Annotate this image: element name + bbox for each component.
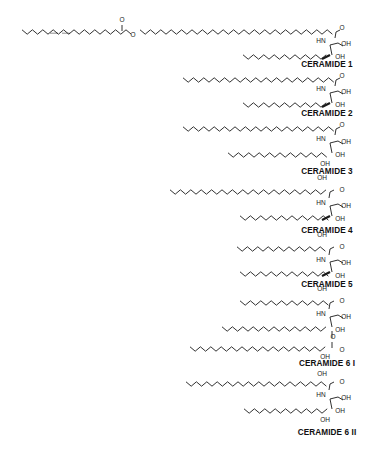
backbone-bond <box>330 206 332 216</box>
atom-label-oh: OH <box>320 416 330 423</box>
amide-bond <box>335 32 336 38</box>
ceramide-6-i-structure: OHOHNOHOHOOOH CERAMIDE 6 I <box>190 285 355 368</box>
atom-label-oh: OH <box>341 88 351 95</box>
ceramide-1-caption: CERAMIDE 1 <box>301 60 353 69</box>
hydroxymethyl-bond <box>330 260 338 262</box>
atom-label-oh: OH <box>317 174 327 181</box>
atom-label-oh: OH <box>341 313 351 320</box>
atom-label-o: O <box>330 333 335 340</box>
amide-bond <box>335 80 336 86</box>
ceramide-5-structure: OHOHNOHOH CERAMIDE 5 <box>237 231 353 289</box>
ceramide-5-alpha-hydroxy-acyl-chain <box>237 247 325 251</box>
ceramide-6-i-sphingoid-chain <box>222 327 326 331</box>
ceramide-3-structure: OHNOHOHOH CERAMIDE 3 <box>183 121 353 176</box>
atom-label-o: O <box>339 346 344 353</box>
atom-label-oh: OH <box>341 40 351 47</box>
amide-bond <box>335 129 336 135</box>
atom-label-o: O <box>339 24 344 31</box>
ceramide-4-caption: CERAMIDE 4 <box>301 226 353 235</box>
hydroxymethyl-bond <box>330 43 338 45</box>
atom-label-oh: OH <box>335 215 345 222</box>
atom-label-hn: HN <box>316 37 326 44</box>
backbone-bond <box>330 317 332 327</box>
atom-label-hn: HN <box>316 85 326 92</box>
hydroxymethyl-bond <box>330 91 338 93</box>
hydroxymethyl-bond <box>330 315 338 317</box>
backbone-bond <box>330 45 332 55</box>
atom-label-oh: OH <box>341 138 351 145</box>
ceramide-6-ii-caption: CERAMIDE 6 II <box>298 428 357 437</box>
hydroxymethyl-bond <box>330 397 338 399</box>
atom-label-oh: OH <box>335 326 345 333</box>
ceramide-5-caption: CERAMIDE 5 <box>301 280 353 289</box>
ceramide-4-alpha-hydroxy-acyl-chain <box>170 190 326 194</box>
atom-label-hn: HN <box>316 310 326 317</box>
ceramide-6-ii-phytosphingosine-chain <box>244 409 327 413</box>
atom-label-oh: OH <box>335 272 345 279</box>
carbonyl-bond <box>330 247 334 249</box>
atom-label-hn: HN <box>316 199 326 206</box>
atom-label-oh: OH <box>317 285 327 292</box>
ceramide-6-i-alpha-hydroxy-acyl-chain <box>240 301 328 305</box>
atom-label-o: O <box>339 72 344 79</box>
atom-label-o: O <box>339 186 344 193</box>
trans-double-bond-wedge <box>322 216 330 220</box>
ceramide-4-structure: OHOHNOHOH CERAMIDE 4 <box>170 174 353 235</box>
atom-label-hn: HN <box>316 135 326 142</box>
amide-bond <box>329 384 330 390</box>
atom-label-hn: HN <box>316 256 326 263</box>
atom-label-o: O <box>339 297 344 304</box>
atom-label-oh: OH <box>335 407 345 414</box>
atom-label-oh: OH <box>335 53 345 60</box>
ceramide-3-phytosphingosine-chain <box>228 153 327 157</box>
ceramide-6-i-esterified-hydroxy-acyl-chain <box>190 347 325 351</box>
ceramide-2-acyl-chain <box>183 78 334 82</box>
amide-bond <box>329 192 330 198</box>
backbone-bond <box>330 143 332 153</box>
backbone-bond <box>330 262 332 272</box>
atom-label-oh: OH <box>341 202 351 209</box>
atom-label-o: O <box>130 31 135 38</box>
atom-label-o: O <box>339 121 344 128</box>
carbonyl-bond <box>330 301 334 303</box>
ceramide-3-caption: CERAMIDE 3 <box>301 167 353 176</box>
hydroxymethyl-bond <box>330 141 338 143</box>
atom-label-oh: OH <box>341 259 351 266</box>
atom-label-oh: OH <box>335 151 345 158</box>
atom-label-o: O <box>339 378 344 385</box>
ceramide-1-structure: OOOHNOHOH CERAMIDE 1 <box>22 16 353 69</box>
hydroxymethyl-bond <box>330 204 338 206</box>
ceramide-2-structure: OHNOHOH CERAMIDE 2 <box>183 72 353 118</box>
ceramide-3-acyl-chain <box>183 127 334 131</box>
backbone-bond <box>330 399 332 409</box>
ceramide-1-sphingoid-chain <box>243 55 326 59</box>
atom-label-o: O <box>119 16 124 23</box>
ceramide-5-sphingoid-chain <box>240 272 328 276</box>
amide-bond <box>329 249 330 255</box>
ceramide-1-linoleic-ester-chain <box>22 30 131 34</box>
ceramide-2-caption: CERAMIDE 2 <box>301 109 353 118</box>
atom-label-oh: OH <box>335 101 345 108</box>
ceramide-4-sphingoid-chain <box>240 216 328 220</box>
ceramide-1-omega-hydroxy-acyl-chain <box>140 30 332 34</box>
amide-bond <box>329 303 330 309</box>
atom-label-hn: HN <box>316 391 326 398</box>
atom-label-oh: OH <box>320 160 330 167</box>
atom-label-o: O <box>339 243 344 250</box>
ceramide-6-i-caption: CERAMIDE 6 I <box>299 359 355 368</box>
atom-label-oh: OH <box>317 231 327 238</box>
trans-double-bond-wedge <box>322 272 330 276</box>
backbone-bond <box>330 93 332 103</box>
ceramide-2-sphingoid-chain <box>243 103 326 107</box>
atom-label-oh: OH <box>341 394 351 401</box>
ceramide-structures-figure: OOOHNOHOH CERAMIDE 1 OHNOHOH CERAMIDE 2 … <box>0 0 381 455</box>
atom-label-oh: OH <box>317 370 327 377</box>
carbonyl-bond <box>330 190 334 192</box>
ceramide-6-ii-structure: OHOHNOHOHOH CERAMIDE 6 II <box>186 370 356 437</box>
carbonyl-bond <box>330 382 334 384</box>
ceramide-6-ii-alpha-hydroxy-acyl-chain <box>186 382 326 386</box>
